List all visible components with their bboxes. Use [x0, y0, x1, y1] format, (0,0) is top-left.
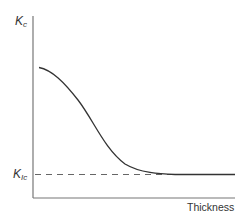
- y-axis-label: Kc: [15, 14, 27, 29]
- y-axis-label-main: K: [15, 14, 23, 28]
- reference-label-subscript: Ic: [21, 173, 27, 182]
- x-axis-label: Thickness: [187, 201, 234, 213]
- reference-line-label: KIc: [13, 167, 27, 182]
- y-axis-label-subscript: c: [23, 20, 27, 29]
- kc-curve: [39, 68, 235, 175]
- chart-canvas: [0, 0, 248, 221]
- reference-label-main: K: [13, 167, 21, 181]
